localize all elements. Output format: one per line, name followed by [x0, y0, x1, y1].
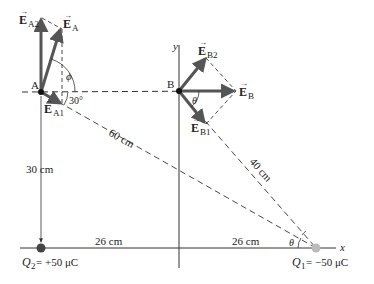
- angle-arc-30: [64, 92, 68, 105]
- label-q1: Q 1 = −50 μC: [292, 255, 348, 271]
- electric-field-diagram: A B y x E A2 → E A → E A1 → E B2 → E B →…: [0, 0, 374, 284]
- label-ea2: E A2 →: [19, 7, 39, 29]
- label-40cm: 40 cm: [247, 155, 274, 184]
- label-theta-b: θ: [192, 95, 197, 106]
- label-60cm: 60 cm: [107, 126, 137, 150]
- point-b: [176, 88, 182, 94]
- label-eb2: E B2 →: [198, 38, 218, 60]
- construction-dash-b-lower: [206, 91, 236, 124]
- svg-text:1: 1: [301, 261, 306, 271]
- label-x-axis: x: [339, 241, 345, 253]
- svg-text:= −50 μC: = −50 μC: [306, 256, 348, 268]
- vector-ea: [41, 30, 60, 92]
- svg-text:B: B: [248, 91, 254, 101]
- svg-text:→: →: [192, 115, 200, 124]
- label-q2: Q 2 = +50 μC: [22, 255, 78, 271]
- construction-dash-b-upper: [206, 58, 236, 91]
- label-y-axis: y: [172, 40, 178, 52]
- svg-text:B2: B2: [207, 50, 218, 60]
- svg-text:Q: Q: [22, 255, 31, 269]
- label-phi: ϕ: [66, 70, 72, 82]
- svg-text:→: →: [20, 7, 28, 16]
- svg-text:A: A: [72, 23, 79, 33]
- label-26cm-right: 26 cm: [232, 235, 260, 247]
- label-eb: E B →: [239, 79, 254, 101]
- svg-text:2: 2: [31, 261, 36, 271]
- svg-text:Q: Q: [292, 255, 301, 269]
- label-30deg: 30°: [69, 95, 83, 106]
- label-theta-q1: θ: [289, 237, 294, 248]
- svg-text:→: →: [45, 96, 53, 105]
- construction-dash-a-top: [42, 18, 62, 29]
- label-a: A: [31, 79, 39, 91]
- label-30cm: 30 cm: [26, 163, 54, 175]
- svg-text:→: →: [199, 38, 207, 47]
- diagram-svg: A B y x E A2 → E A → E A1 → E B2 → E B →…: [0, 0, 374, 284]
- svg-text:→: →: [64, 11, 72, 20]
- svg-text:A2: A2: [28, 19, 39, 29]
- svg-text:= +50 μC: = +50 μC: [36, 256, 78, 268]
- charge-q2: [37, 244, 46, 253]
- angle-arc-theta-q1: [298, 238, 301, 248]
- label-ea: E A →: [63, 11, 79, 33]
- label-b: B: [167, 78, 174, 90]
- svg-text:B1: B1: [200, 127, 211, 137]
- svg-text:→: →: [240, 79, 248, 88]
- charge-q1: [312, 244, 321, 253]
- label-26cm-left: 26 cm: [95, 235, 123, 247]
- vector-eb2: [179, 59, 205, 91]
- svg-text:A1: A1: [53, 108, 64, 118]
